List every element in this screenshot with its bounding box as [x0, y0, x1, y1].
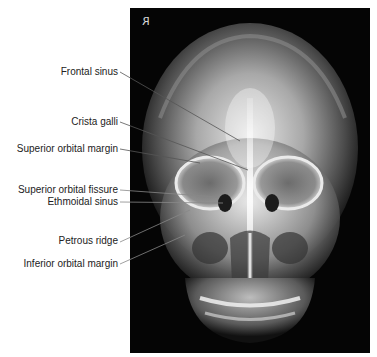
- label-superior-orbital-fissure: Superior orbital fissure: [18, 184, 118, 196]
- skull-illustration: [130, 8, 370, 353]
- label-crista-galli: Crista galli: [71, 116, 118, 128]
- label-frontal-sinus: Frontal sinus: [61, 66, 118, 78]
- label-superior-orbital-margin: Superior orbital margin: [17, 143, 118, 155]
- orientation-marker: R: [142, 15, 150, 28]
- label-ethmoidal-sinus: Ethmoidal sinus: [47, 196, 118, 208]
- label-petrous-ridge: Petrous ridge: [59, 235, 118, 247]
- label-inferior-orbital-margin: Inferior orbital margin: [24, 258, 118, 270]
- skull-xray-image: R: [130, 8, 370, 353]
